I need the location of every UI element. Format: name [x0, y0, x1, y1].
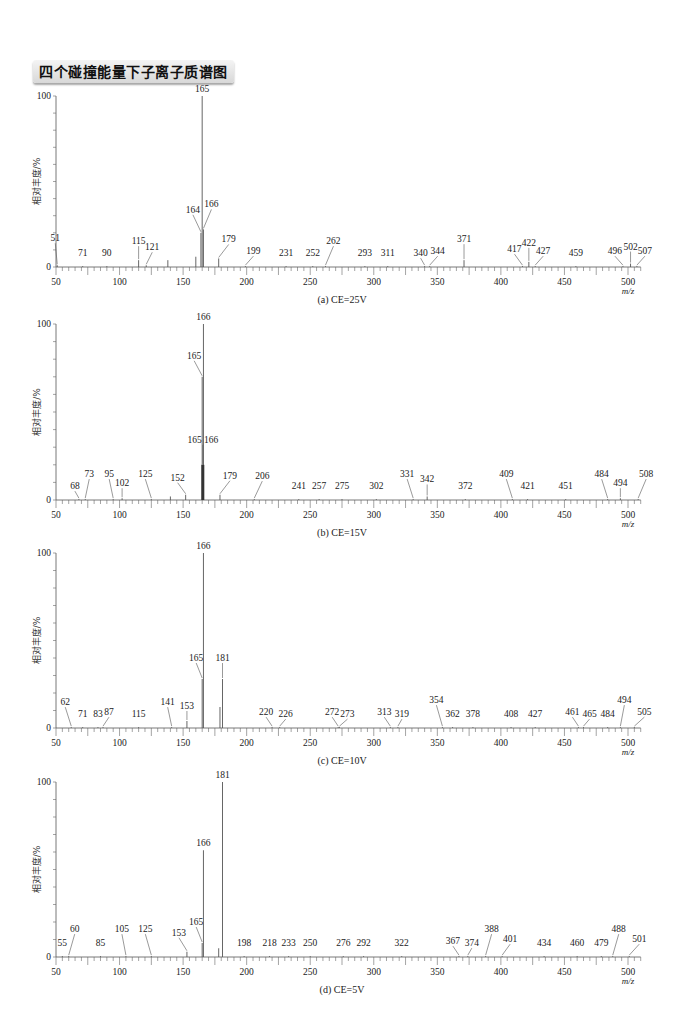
x-axis-label: m/z: [622, 976, 635, 986]
x-tick-250: 250: [303, 510, 318, 520]
peak-label: 302: [369, 481, 384, 491]
x-tick-350: 350: [430, 738, 445, 748]
peak-label: 165 166: [187, 435, 218, 445]
peak-label: 388: [485, 924, 500, 934]
peak-label: 85: [96, 938, 106, 948]
y-tick-100: 100: [37, 91, 52, 101]
peak-label: 252: [306, 248, 321, 258]
x-tick-100: 100: [112, 510, 127, 520]
x-tick-150: 150: [176, 738, 191, 748]
y-axis-label: 相对丰度/%: [31, 388, 42, 436]
peak-label: 83: [93, 709, 103, 719]
peak-label: 331: [400, 469, 415, 479]
peak-label: 322: [395, 938, 410, 948]
x-tick-100: 100: [112, 277, 127, 287]
peak-label: 181: [215, 653, 230, 663]
x-tick-300: 300: [367, 277, 382, 287]
peak-label: 250: [303, 938, 318, 948]
peak-label: 409: [499, 469, 514, 479]
peak-label: 218: [262, 938, 277, 948]
spectrum-panel-d: 1000相对丰度/%50100150200250300350400450500m…: [31, 770, 647, 996]
x-tick-350: 350: [430, 510, 445, 520]
x-tick-350: 350: [430, 277, 445, 287]
peak-label: 427: [536, 246, 551, 256]
peak-label: 479: [594, 938, 609, 948]
y-axis-label: 相对丰度/%: [31, 616, 42, 664]
x-tick-50: 50: [51, 510, 61, 520]
peak-label: 401: [503, 934, 518, 944]
peak-label: 166: [196, 838, 211, 848]
peak-label: 262: [326, 236, 341, 246]
peak-label: 378: [466, 709, 481, 719]
peak-label: 164: [186, 205, 201, 215]
peak-label: 507: [638, 246, 653, 256]
x-tick-100: 100: [112, 738, 127, 748]
peak-label: 292: [356, 938, 371, 948]
peak-label: 165: [195, 84, 210, 94]
x-tick-100: 100: [112, 967, 127, 977]
x-tick-300: 300: [367, 510, 382, 520]
x-tick-150: 150: [176, 510, 191, 520]
x-axis-label: m/z: [622, 747, 635, 757]
peak-label: 121: [145, 242, 160, 252]
peak-label: 502: [623, 242, 638, 252]
peak-label: 181: [215, 770, 230, 780]
peak-label: 153: [172, 928, 187, 938]
x-tick-150: 150: [176, 277, 191, 287]
peak-label: 367: [446, 936, 461, 946]
y-tick-0: 0: [46, 495, 51, 505]
x-tick-200: 200: [240, 967, 255, 977]
panel-caption: (b) CE=15V: [317, 527, 368, 539]
y-axis-label: 相对丰度/%: [31, 845, 42, 893]
x-tick-200: 200: [240, 277, 255, 287]
peak-label: 374: [465, 938, 480, 948]
peak-label: 501: [632, 934, 647, 944]
peak-label: 198: [237, 938, 252, 948]
peak-label: 371: [457, 234, 472, 244]
peak-label: 55: [58, 938, 68, 948]
peak-label: 165: [187, 351, 202, 361]
peak-label: 460: [570, 938, 585, 948]
peak-label: 257: [312, 481, 327, 491]
peak-label: 166: [204, 199, 219, 209]
peak-label: 484: [601, 709, 616, 719]
peak-label: 115: [132, 709, 146, 719]
peak-label: 199: [246, 246, 261, 256]
peak-label: 508: [639, 469, 654, 479]
x-tick-150: 150: [176, 967, 191, 977]
peak-label: 319: [395, 709, 410, 719]
peak-label: 311: [381, 248, 395, 258]
peak-label: 417: [507, 244, 522, 254]
peak-label: 125: [138, 924, 153, 934]
x-tick-400: 400: [494, 738, 509, 748]
peak-label: 340: [413, 248, 428, 258]
peak-label: 166: [196, 312, 211, 322]
x-tick-50: 50: [51, 967, 61, 977]
peak-label: 362: [445, 709, 460, 719]
peak-label: 461: [565, 707, 580, 717]
x-tick-250: 250: [303, 967, 318, 977]
peak-label: 427: [528, 709, 543, 719]
peak-label: 68: [70, 481, 80, 491]
y-tick-100: 100: [37, 548, 52, 558]
peak-label: 226: [279, 709, 294, 719]
x-tick-250: 250: [303, 277, 318, 287]
peak-label: 206: [255, 471, 270, 481]
panel-caption: (a) CE=25V: [317, 294, 367, 306]
peak-label: 494: [613, 478, 628, 488]
panel-caption: (c) CE=10V: [317, 755, 367, 767]
peak-label: 372: [458, 481, 473, 491]
peak-label: 166: [196, 541, 211, 551]
peak-label: 165: [189, 917, 204, 927]
peak-label: 60: [70, 924, 80, 934]
peak-label: 179: [223, 471, 238, 481]
peak-label: 505: [637, 707, 652, 717]
peak-label: 422: [522, 238, 537, 248]
peak-label: 451: [559, 481, 574, 491]
peak-label: 408: [504, 709, 519, 719]
peak-label: 344: [431, 246, 446, 256]
peak-label: 273: [340, 709, 355, 719]
peak-label: 275: [335, 481, 350, 491]
peak-label: 73: [84, 469, 94, 479]
peak-label: 465: [582, 709, 597, 719]
